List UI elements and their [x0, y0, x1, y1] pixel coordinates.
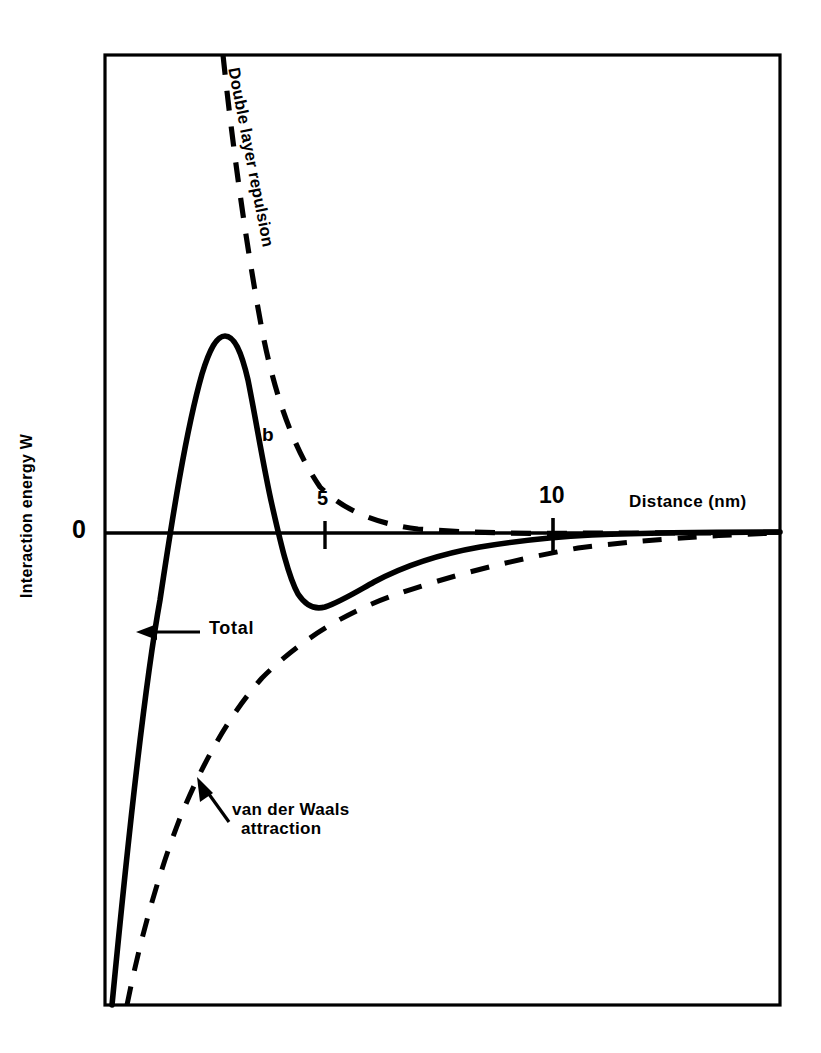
van-der-waals-arrow — [197, 777, 229, 822]
double-layer-repulsion-curve — [223, 55, 780, 533]
dlvo-figure: Interaction energy W 0 5 10 Distance (nm… — [0, 0, 821, 1053]
plot-canvas — [0, 0, 821, 1053]
total-curve-label: Total — [209, 618, 254, 638]
total-energy-curve — [112, 336, 780, 1005]
x-tick-label-10: 10 — [539, 483, 565, 509]
total-arrow — [136, 624, 200, 640]
barrier-b-label: b — [262, 424, 274, 445]
van-der-waals-label: van der Waalsattraction — [232, 800, 350, 838]
van-der-waals-label-line1: van der Waals — [232, 800, 350, 819]
x-tick-label-5: 5 — [317, 487, 328, 509]
zero-tick-label: 0 — [72, 515, 86, 543]
x-axis-label: Distance (nm) — [629, 492, 747, 511]
van-der-waals-label-line2: attraction — [241, 819, 350, 838]
y-axis-label: Interaction energy W — [18, 570, 36, 598]
van-der-waals-curve — [127, 533, 780, 1005]
